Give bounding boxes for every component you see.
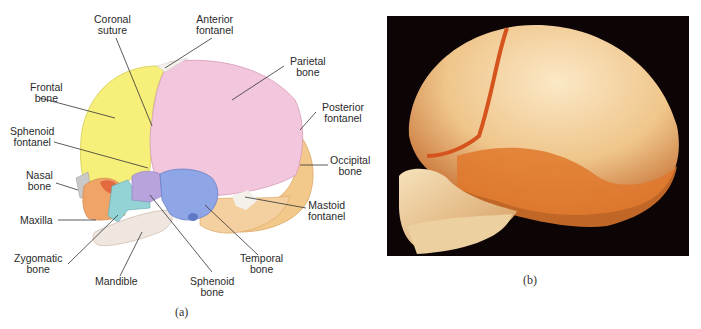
label-sphenoid-fontanel: Sphenoid fontanel [10, 126, 54, 148]
label-anterior-fontanel: Anterior fontanel [196, 14, 233, 36]
caption-b: (b) [523, 273, 537, 288]
label-occipital-bone: Occipital bone [330, 155, 370, 177]
ear-canal-shape [188, 213, 198, 221]
label-maxilla: Maxilla [20, 215, 53, 226]
label-mastoid-fontanel: Mastoid fontanel [308, 200, 345, 222]
label-coronal-suture: Coronal suture [94, 14, 131, 36]
label-sphenoid-bone: Sphenoid bone [190, 276, 234, 298]
temporal-bone-shape [160, 169, 218, 220]
panel-b-photograph: (b) [380, 0, 701, 329]
caption-a: (a) [175, 305, 188, 320]
panel-a-illustration: Coronal suture Anterior fontanel Parieta… [0, 0, 380, 329]
sphenoid-bone-shape [132, 171, 162, 202]
label-nasal-bone: Nasal bone [26, 170, 53, 192]
skull-photo [387, 16, 689, 256]
skull-photo-illustration [387, 16, 689, 256]
label-parietal-bone: Parietal bone [290, 56, 326, 78]
label-mandible: Mandible [95, 276, 138, 287]
label-zygomatic-bone: Zygomatic bone [14, 253, 62, 275]
label-frontal-bone: Frontal bone [30, 82, 63, 104]
label-posterior-fontanel: Posterior fontanel [322, 102, 364, 124]
label-temporal-bone: Temporal bone [240, 253, 283, 275]
